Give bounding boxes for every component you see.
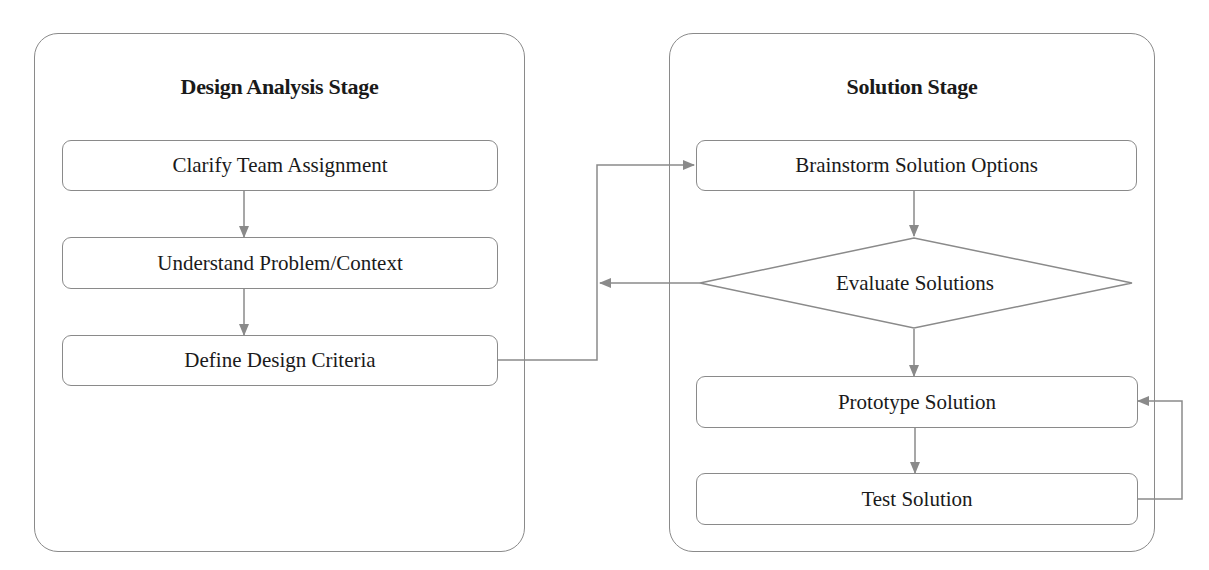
decision-evaluate-solutions: Evaluate Solutions <box>780 263 1050 303</box>
step-brainstorm-solution-options: Brainstorm Solution Options <box>696 140 1137 191</box>
design-analysis-stage: Design Analysis Stage <box>34 33 525 552</box>
step-prototype-solution: Prototype Solution <box>696 376 1138 428</box>
step-clarify-team-assignment: Clarify Team Assignment <box>62 140 498 191</box>
step-understand-problem-context: Understand Problem/Context <box>62 237 498 289</box>
step-define-design-criteria: Define Design Criteria <box>62 335 498 386</box>
stage-title: Solution Stage <box>670 74 1154 100</box>
step-test-solution: Test Solution <box>696 473 1138 525</box>
stage-title: Design Analysis Stage <box>35 74 524 100</box>
